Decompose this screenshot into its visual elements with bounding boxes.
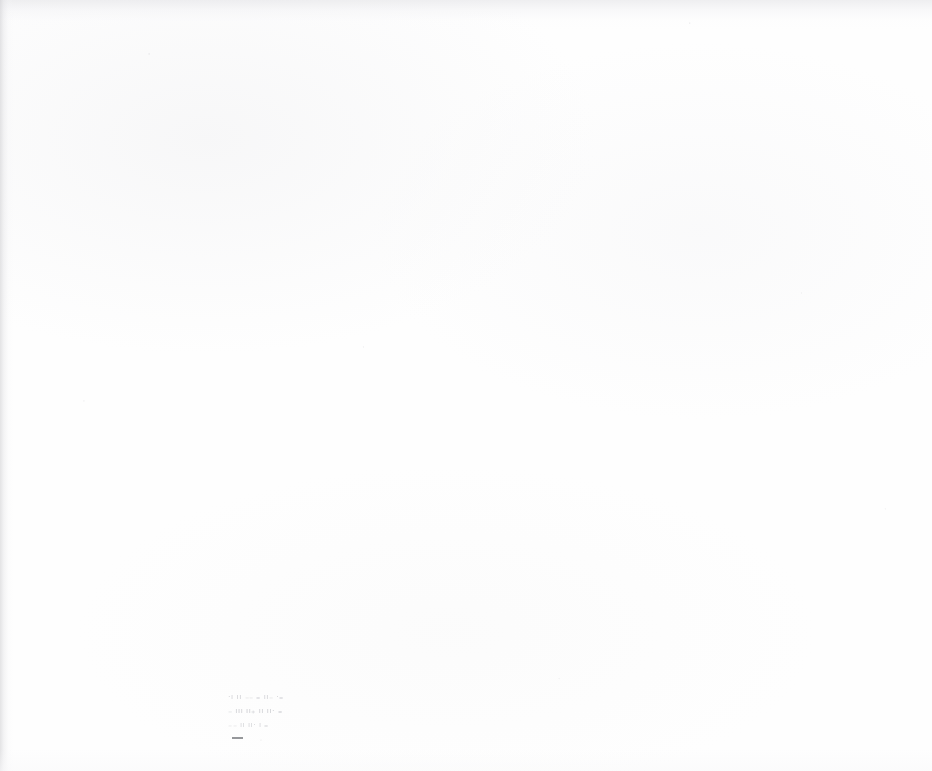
dash-mark — [232, 737, 243, 739]
scan-speckle-noise — [0, 0, 932, 771]
faded-text-line-3: ₋₋ ıı ıı· ı ₌ — [228, 720, 298, 734]
faded-text-line-1: ·ı ıı ₋₋ ₌ ıı₋ ·₌ — [228, 692, 310, 706]
faded-text-line-2: ₋ ııı ıı₊ ıı ıı· ₌ — [228, 706, 306, 720]
faded-text-block: ·ı ıı ₋₋ ₌ ıı₋ ·₌ ₋ ııı ıı₊ ıı ıı· ₌ ₋₋ … — [228, 692, 320, 734]
scanned-page: ·ı ıı ₋₋ ₌ ıı₋ ·₌ ₋ ııı ıı₊ ıı ıı· ₌ ₋₋ … — [0, 0, 932, 771]
